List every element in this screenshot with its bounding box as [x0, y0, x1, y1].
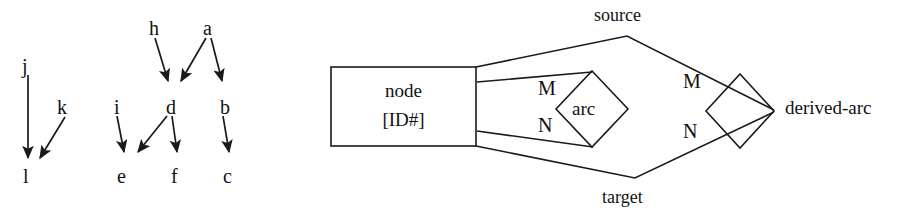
dag-edge-k-to-l — [40, 117, 65, 158]
dag-edge-a-to-b — [211, 38, 222, 81]
er-connector-entity-to-target-lower — [476, 112, 774, 178]
er-connector-entity-to-source-upper — [476, 36, 774, 110]
dag-edge-a-to-d — [181, 38, 206, 81]
er-relationship-diamond-derived-arc — [706, 74, 774, 148]
er-connector-entity-to-arc-bottom — [477, 131, 593, 147]
node-entity-label: node[ID#] — [331, 81, 476, 129]
dag-node-j: j — [22, 56, 28, 76]
dag-node-a: a — [203, 18, 212, 38]
dag-node-k: k — [57, 97, 67, 117]
dag-node-i: i — [114, 97, 120, 117]
node-entity-line-0: node — [331, 81, 476, 100]
er-role-label-source: source — [594, 6, 641, 24]
er-connector-entity-to-arc-top — [477, 72, 592, 82]
dag-edge-b-to-c — [223, 116, 229, 152]
er-relationship-label-arc: arc — [572, 99, 595, 118]
figure-canvas: jklhaidbefc node[ID#] arcderived-arc sou… — [0, 0, 915, 216]
er-cardinality-derived-arc-m: M — [683, 71, 701, 91]
dag-edge-h-to-d — [155, 38, 168, 81]
node-entity-line-1: [ID#] — [331, 110, 476, 129]
dag-node-b: b — [220, 97, 230, 117]
dag-node-d: d — [166, 97, 176, 117]
er-cardinality-derived-arc-n: N — [683, 121, 697, 141]
dag-edge-d-to-e — [138, 116, 167, 152]
dag-node-e: e — [117, 166, 126, 186]
dag-node-f: f — [171, 166, 178, 186]
dag-node-h: h — [149, 18, 159, 38]
er-cardinality-arc-n: N — [538, 115, 552, 135]
er-role-label-target: target — [602, 188, 643, 206]
dag-node-l: l — [23, 166, 29, 186]
er-relationship-label-derived-arc: derived-arc — [785, 98, 872, 117]
dag-edge-d-to-f — [172, 116, 177, 152]
er-cardinality-arc-m: M — [538, 78, 556, 98]
dag-edge-i-to-e — [117, 116, 124, 152]
dag-node-c: c — [223, 166, 232, 186]
